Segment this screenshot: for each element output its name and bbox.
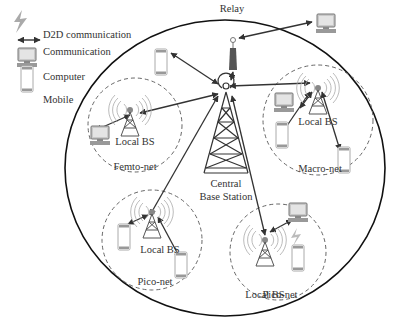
pico-net-right-label: Pico-net (263, 290, 298, 301)
local-bs-macro-icon (297, 73, 340, 114)
mobile-icon (155, 49, 167, 75)
relay-icon (229, 38, 237, 71)
legend-d2d-lightning-icon (14, 10, 27, 33)
local-bs-pico-right-icon (244, 225, 287, 266)
computer-icon (90, 126, 110, 145)
central-label-line2: Base Station (200, 192, 253, 203)
legend-d2d-label: D2D communication (43, 30, 131, 41)
pico-net-left-label: Pico-net (138, 277, 173, 288)
local-bs-femto-label: Local BS (115, 137, 154, 148)
legend-computer-label: Computer (43, 72, 85, 83)
computer-icon (316, 14, 336, 33)
local-bs-pico-left-label: Local BS (140, 245, 179, 256)
mobile-icon (118, 224, 130, 250)
legend-mobile-icon (21, 66, 33, 92)
local-bs-pico-left-icon (131, 197, 174, 238)
legend-mobile-label: Mobile (43, 95, 73, 106)
mobile-icon (292, 245, 304, 271)
legend-computer-icon (17, 48, 37, 67)
central-base-station-icon (204, 73, 248, 173)
femto-net-label: Femto-net (113, 162, 156, 173)
central-label-line1: Central (211, 179, 242, 190)
computer-icon (288, 203, 308, 222)
computer-icon (274, 93, 294, 112)
mobile-icon (276, 122, 288, 148)
local-bs-macro-label: Local BS (298, 117, 337, 128)
macro-net-label: Macro-net (298, 164, 342, 175)
relay-label: Relay (220, 4, 245, 15)
pico-net-cell-right (230, 204, 326, 300)
mobile-icon (175, 252, 187, 278)
legend-communication-label: Communication (43, 47, 111, 58)
d2d-lightning-icon (291, 228, 301, 246)
